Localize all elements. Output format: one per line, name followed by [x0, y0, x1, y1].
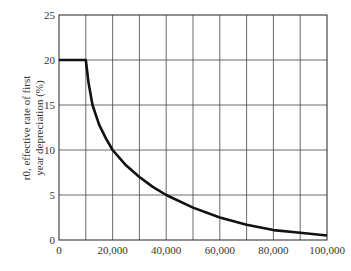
- x-axis-ticks: 020,00040,00060,00080,000100,000: [56, 244, 345, 256]
- x-tick-label: 80,000: [258, 244, 289, 256]
- y-tick-label: 15: [44, 99, 56, 111]
- chart: 0510152025 020,00040,00060,00080,000100,…: [0, 0, 351, 271]
- y-axis-label: r0, effective rate of first year depreci…: [20, 76, 46, 181]
- y-tick-label: 25: [44, 9, 56, 21]
- x-tick-label: 20,000: [97, 244, 128, 256]
- x-tick-label: 60,000: [205, 244, 236, 256]
- y-tick-label: 10: [44, 144, 56, 156]
- y-tick-label: 5: [50, 189, 56, 201]
- y-axis-label-line2: year depreciation (%): [33, 80, 46, 176]
- x-tick-label: 100,000: [309, 244, 345, 256]
- y-axis-ticks: 0510152025: [44, 9, 56, 246]
- y-tick-label: 20: [44, 54, 56, 66]
- x-tick-label: 40,000: [151, 244, 182, 256]
- y-axis-label-line1: r0, effective rate of first: [20, 76, 32, 181]
- x-tick-label: 0: [56, 244, 62, 256]
- y-tick-label: 0: [50, 234, 56, 246]
